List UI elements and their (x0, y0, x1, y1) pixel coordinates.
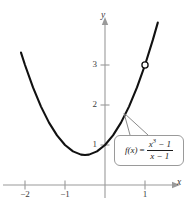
y-tick-label-2: 2 (85, 100, 97, 109)
x-tick-label--1: −1 (57, 190, 73, 199)
function-formula: f(x) = x3 − 1 x − 1 (125, 139, 173, 161)
formula-callout-box: f(x) = x3 − 1 x − 1 (114, 135, 184, 166)
formula-function-name: f(x) (125, 146, 138, 155)
x-tick-label-1: 1 (138, 190, 152, 199)
leader-right-stroke (124, 113, 148, 135)
graph-figure: −2 −1 1 1 2 3 x y f(x) = x3 − 1 x − 1 (0, 0, 188, 211)
y-axis (101, 17, 110, 198)
formula-denominator: x − 1 (148, 151, 171, 161)
open-circle-hole-marker (142, 62, 148, 68)
y-tick-label-3: 3 (85, 60, 97, 69)
y-axis-label: y (101, 11, 105, 21)
x-axis-label: x (177, 178, 181, 188)
formula-equals-sign: = (140, 146, 145, 155)
numerator-remainder: − 1 (156, 139, 171, 149)
y-tick-label-1: 1 (85, 140, 97, 149)
formula-numerator: x3 − 1 (147, 139, 173, 149)
callout-leader-line (124, 113, 148, 135)
formula-fraction: x3 − 1 x − 1 (147, 139, 173, 161)
x-tick-label--2: −2 (17, 190, 33, 199)
